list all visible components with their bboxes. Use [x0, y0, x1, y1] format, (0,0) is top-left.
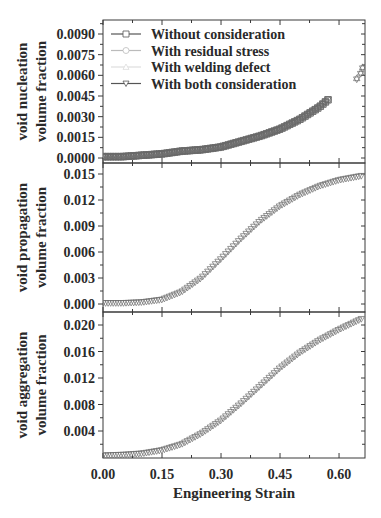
- y-tick-label: 0.0000: [57, 151, 96, 166]
- x-axis-label: Engineering Strain: [103, 485, 365, 502]
- y-axis-label: void aggregation: [14, 331, 30, 438]
- legend-item-label: With both consideration: [151, 77, 296, 92]
- y-tick-label: 0.016: [64, 345, 96, 360]
- y-axis-label: volume fraction: [33, 186, 49, 288]
- x-tick-label: 0.60: [327, 467, 352, 482]
- y-tick-label: 0.020: [64, 318, 96, 333]
- data-series: [100, 173, 365, 306]
- y-axis-label: volume fraction: [33, 334, 49, 436]
- y-axis-label: void nucleation: [14, 42, 30, 141]
- x-tick-label: 0.15: [150, 467, 175, 482]
- legend-item-label: Without consideration: [151, 27, 285, 42]
- y-tick-label: 0.0060: [57, 68, 96, 83]
- y-tick-label: 0.009: [64, 219, 96, 234]
- chart-canvas: 0.00900.00750.00600.00450.00300.00150.00…: [0, 0, 381, 518]
- chart-panel-top: 0.00900.00750.00600.00450.00300.00150.00…: [14, 20, 366, 166]
- y-tick-label: 0.004: [64, 424, 96, 439]
- y-tick-label: 0.0090: [57, 27, 96, 42]
- x-tick-label: 0.00: [91, 467, 116, 482]
- legend: Without considerationWith residual stres…: [111, 27, 296, 92]
- y-tick-label: 0.012: [64, 371, 96, 386]
- plot-frame: [103, 163, 365, 312]
- y-tick-label: 0.006: [64, 245, 96, 260]
- chart-panel-bottom: 0.0200.0160.0120.0080.004void aggregatio…: [14, 312, 365, 482]
- x-tick-label: 0.30: [209, 467, 234, 482]
- x-tick-label: 0.45: [268, 467, 293, 482]
- y-tick-label: 0.012: [64, 193, 96, 208]
- y-tick-label: 0.008: [64, 398, 96, 413]
- legend-item-label: With welding defect: [151, 60, 271, 75]
- data-series: [100, 316, 365, 458]
- y-tick-label: 0.0015: [57, 130, 96, 145]
- y-tick-label: 0.0075: [57, 48, 96, 63]
- y-tick-label: 0.000: [64, 297, 96, 312]
- y-tick-label: 0.0030: [57, 110, 96, 125]
- chart-figure: 0.00900.00750.00600.00450.00300.00150.00…: [0, 0, 381, 518]
- y-tick-label: 0.0045: [57, 89, 96, 104]
- y-axis-label: void propagation: [14, 182, 30, 292]
- y-tick-label: 0.003: [64, 271, 96, 286]
- y-axis-label: volume fraction: [33, 40, 49, 142]
- y-tick-label: 0.015: [64, 167, 96, 182]
- legend-item-label: With residual stress: [151, 44, 270, 59]
- chart-panel-middle: 0.0150.0120.0090.0060.0030.000void propa…: [14, 163, 365, 312]
